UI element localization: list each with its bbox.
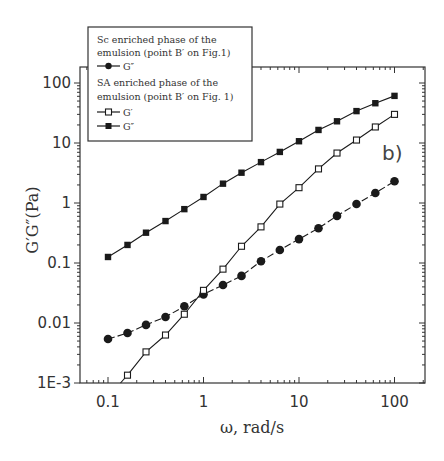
legend-entry-sc-gpp: G″ [123, 61, 135, 72]
y-tick-label: 0.01 [38, 314, 71, 332]
data-point-open-square [315, 166, 321, 172]
data-point-filled-circle [371, 189, 380, 198]
data-point-filled-square [143, 229, 149, 235]
data-point-filled-square [124, 242, 130, 248]
y-tick-labels: 1E-30.010.1110100 [37, 74, 71, 392]
y-tick-label: 0.1 [47, 254, 71, 272]
data-point-filled-square [353, 108, 359, 114]
data-point-filled-circle [276, 246, 285, 255]
data-point-filled-square [391, 93, 397, 99]
data-point-open-square [392, 111, 398, 117]
legend-group2-title-line1: SA enriched phase of the [97, 77, 218, 88]
data-point-filled-square [296, 138, 302, 144]
x-tick-label: 1 [199, 393, 209, 411]
data-point-filled-circle [161, 313, 170, 322]
data-point-filled-square [258, 159, 264, 165]
data-point-filled-square [315, 127, 321, 133]
y-tick-label: 100 [42, 74, 71, 92]
data-point-filled-circle [352, 200, 361, 209]
y-tick-label: 1E-3 [37, 374, 71, 392]
data-point-filled-circle [219, 281, 228, 290]
legend-group1-title-line2: emulsion (point B′ on Fig.1) [97, 47, 231, 58]
data-point-filled-square [220, 180, 226, 186]
data-point-open-square [277, 201, 283, 207]
clipped-caption-strip [0, 454, 444, 461]
data-point-filled-square [277, 149, 283, 155]
legend-entry-sa-gp: G′ [123, 107, 133, 118]
data-point-filled-circle [333, 212, 342, 221]
chart: 1E-30.010.1110100 0.1110100 ω, rad/s G′G… [0, 0, 444, 461]
data-point-filled-square [372, 100, 378, 106]
legend: Sc enriched phase of the emulsion (point… [88, 27, 252, 141]
x-axis-title: ω, rad/s [220, 418, 284, 437]
series-line [108, 181, 395, 339]
x-tick-label: 10 [289, 393, 308, 411]
series-filled-circle [104, 177, 399, 343]
data-point-filled-square [105, 254, 111, 260]
data-point-filled-circle [295, 235, 304, 244]
data-point-filled-square [181, 206, 187, 212]
data-point-open-square [143, 349, 149, 355]
data-point-filled-circle [104, 335, 113, 344]
data-point-filled-square [162, 218, 168, 224]
data-point-open-square [372, 124, 378, 130]
series-open-square [120, 111, 397, 383]
data-point-filled-square [238, 169, 244, 175]
data-point-open-square [258, 224, 264, 230]
data-point-open-square [181, 311, 187, 317]
data-point-filled-circle [390, 177, 399, 186]
x-tick-label: 100 [380, 393, 409, 411]
data-point-open-square [239, 243, 245, 249]
y-tick-label: 10 [52, 134, 71, 152]
data-point-open-square [162, 332, 168, 338]
y-tick-label: 1 [61, 194, 71, 212]
data-point-filled-circle [180, 302, 189, 311]
data-point-filled-circle [237, 272, 246, 281]
data-point-filled-square [200, 194, 206, 200]
panel-label: b) [382, 141, 403, 165]
data-point-open-square [296, 185, 302, 191]
legend-group2-title-line2: emulsion (point B′ on Fig. 1) [97, 91, 234, 102]
data-point-open-square [124, 372, 130, 378]
x-tick-labels: 0.1110100 [96, 393, 409, 411]
data-point-filled-circle [257, 257, 266, 266]
data-point-filled-square [334, 118, 340, 124]
data-point-open-square [220, 266, 226, 272]
legend-group1-title-line1: Sc enriched phase of the [97, 34, 217, 45]
data-point-open-square [334, 150, 340, 156]
data-point-filled-circle [314, 224, 323, 233]
data-point-open-square [201, 287, 207, 293]
data-point-open-square [353, 137, 359, 143]
data-point-filled-circle [123, 329, 132, 338]
data-point-filled-circle [142, 321, 151, 330]
x-tick-label: 0.1 [96, 393, 120, 411]
legend-entry-sa-gpp: G″ [123, 121, 135, 132]
y-axis-title: G′G″(Pa) [23, 186, 42, 253]
